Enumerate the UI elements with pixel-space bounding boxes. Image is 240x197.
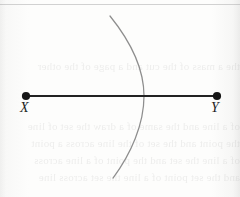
point-label-x: X: [20, 101, 29, 115]
endpoint-dot-y: [213, 92, 221, 100]
endpoint-dot-x: [22, 92, 30, 100]
diagram-canvas: [0, 0, 240, 197]
point-label-y: Y: [211, 101, 219, 115]
geometry-figure: the a mass of the cut and a page of the …: [0, 0, 240, 197]
